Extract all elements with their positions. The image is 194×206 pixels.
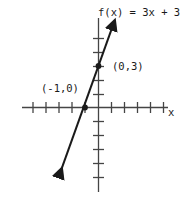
x-intercept-point-label: (-1,0) — [41, 83, 79, 94]
function-line — [59, 28, 112, 176]
point-x-intercept — [82, 105, 88, 111]
y-axis — [93, 18, 104, 192]
point-y-intercept — [96, 63, 102, 69]
x-axis — [22, 102, 168, 113]
function-equation-label: f(x) = 3x + 3 — [98, 7, 180, 18]
coordinate-plane-svg — [0, 0, 194, 206]
y-intercept-point-label: (0,3) — [112, 61, 144, 72]
function-line-segment — [59, 28, 112, 176]
x-axis-label: x — [168, 107, 174, 118]
graph-figure: f(x) = 3x + 3 (0,3) (-1,0) x — [0, 0, 194, 206]
